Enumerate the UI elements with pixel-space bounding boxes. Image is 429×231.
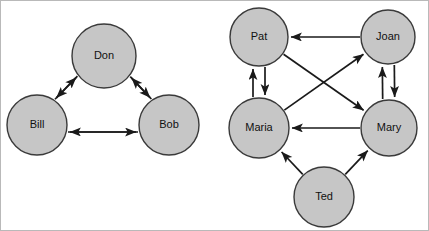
diagram-canvas: DonBillBobPatJoanMariaMaryTed	[0, 0, 429, 231]
nodes-layer: DonBillBobPatJoanMariaMaryTed	[7, 8, 417, 227]
node-pat[interactable]: Pat	[230, 8, 288, 66]
node-bob[interactable]: Bob	[139, 95, 199, 155]
node-maria[interactable]: Maria	[229, 98, 289, 158]
node-bill[interactable]: Bill	[7, 95, 67, 155]
edge-bill-don	[55, 78, 76, 100]
node-label-pat: Pat	[251, 30, 268, 42]
node-label-mary: Mary	[377, 121, 402, 133]
node-label-joan: Joan	[376, 30, 400, 42]
node-label-don: Don	[94, 49, 114, 61]
node-joan[interactable]: Joan	[361, 10, 415, 64]
edge-bob-don	[132, 78, 152, 99]
node-label-ted: Ted	[315, 190, 333, 202]
left-graph-nodes: DonBillBob	[7, 24, 199, 155]
right-graph-nodes: PatJoanMariaMaryTed	[229, 8, 417, 227]
node-label-maria: Maria	[245, 121, 273, 133]
edge-ted-mary	[345, 151, 367, 175]
graph-svg: DonBillBobPatJoanMariaMaryTed	[1, 1, 429, 231]
node-ted[interactable]: Ted	[294, 167, 354, 227]
node-don[interactable]: Don	[72, 24, 136, 88]
edge-ted-maria	[282, 152, 303, 174]
node-label-bill: Bill	[30, 118, 45, 130]
node-mary[interactable]: Mary	[361, 100, 417, 156]
node-label-bob: Bob	[159, 118, 179, 130]
